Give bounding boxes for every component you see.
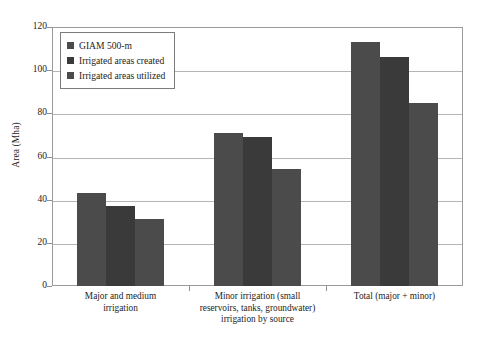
- legend-label: Irrigated areas created: [79, 56, 164, 66]
- bar-chart-figure: Area (Mha) 020406080100120 Major and med…: [0, 0, 490, 341]
- x-category-label: Minor irrigation (smallreservoirs, tanks…: [189, 291, 326, 326]
- legend-swatch-icon: [67, 42, 74, 49]
- bar: [380, 57, 409, 286]
- x-category-label: Total (major + minor): [326, 291, 463, 303]
- y-tick-label: 120: [7, 22, 47, 32]
- y-tick-mark: [47, 286, 52, 287]
- bar: [243, 137, 272, 286]
- bar: [106, 206, 135, 286]
- y-tick-label: 100: [7, 65, 47, 75]
- legend-swatch-icon: [67, 57, 74, 64]
- x-category-label-line: Total (major + minor): [326, 291, 463, 303]
- x-category-label-line: irrigation by source: [189, 314, 326, 326]
- bar: [351, 42, 380, 286]
- bar: [135, 219, 164, 286]
- legend-swatch-icon: [67, 72, 74, 79]
- bar: [272, 169, 301, 286]
- bar: [409, 103, 438, 286]
- y-tick-label: 60: [7, 152, 47, 162]
- x-category-label-line: Minor irrigation (small: [189, 291, 326, 303]
- chart-legend: GIAM 500-mIrrigated areas createdIrrigat…: [60, 32, 175, 89]
- y-tick-label: 40: [7, 195, 47, 205]
- x-category-label-line: Major and medium: [52, 291, 189, 303]
- legend-item: Irrigated areas utilized: [67, 68, 165, 83]
- x-category-label-line: reservoirs, tanks, groundwater): [189, 303, 326, 315]
- y-tick-label: 0: [7, 281, 47, 291]
- legend-item: GIAM 500-m: [67, 38, 165, 53]
- bar: [77, 193, 106, 286]
- x-category-label-line: irrigation: [52, 303, 189, 315]
- bar: [214, 133, 243, 286]
- y-tick-label: 20: [7, 238, 47, 248]
- y-tick-label: 80: [7, 108, 47, 118]
- legend-label: Irrigated areas utilized: [79, 71, 165, 81]
- x-category-label: Major and mediumirrigation: [52, 291, 189, 314]
- legend-item: Irrigated areas created: [67, 53, 165, 68]
- legend-label: GIAM 500-m: [79, 41, 132, 51]
